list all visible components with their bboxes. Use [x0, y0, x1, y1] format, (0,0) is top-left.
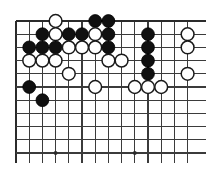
- white-stone[interactable]: [128, 81, 141, 94]
- white-stone[interactable]: [23, 54, 36, 67]
- star-point: [54, 151, 58, 155]
- black-stone[interactable]: [142, 67, 155, 80]
- star-point: [133, 151, 137, 155]
- white-stone[interactable]: [142, 81, 155, 94]
- white-stone[interactable]: [102, 54, 115, 67]
- black-stone[interactable]: [76, 28, 89, 41]
- white-stone[interactable]: [36, 54, 49, 67]
- go-board-svg[interactable]: [0, 0, 206, 177]
- black-stone[interactable]: [102, 41, 115, 54]
- black-stone[interactable]: [23, 81, 36, 94]
- black-stone[interactable]: [142, 41, 155, 54]
- black-stone[interactable]: [102, 15, 115, 28]
- white-stone[interactable]: [76, 41, 89, 54]
- white-stone[interactable]: [181, 41, 194, 54]
- black-stone[interactable]: [36, 94, 49, 107]
- black-stone[interactable]: [102, 28, 115, 41]
- black-stone[interactable]: [89, 15, 102, 28]
- white-stone[interactable]: [49, 15, 62, 28]
- black-stone[interactable]: [142, 54, 155, 67]
- black-stone[interactable]: [23, 41, 36, 54]
- white-stone[interactable]: [62, 41, 75, 54]
- white-stone[interactable]: [181, 67, 194, 80]
- black-stone[interactable]: [49, 41, 62, 54]
- white-stone[interactable]: [181, 28, 194, 41]
- white-stone[interactable]: [89, 81, 102, 94]
- black-stone[interactable]: [36, 28, 49, 41]
- white-stone[interactable]: [115, 54, 128, 67]
- white-stone[interactable]: [62, 67, 75, 80]
- white-stone[interactable]: [89, 28, 102, 41]
- go-board-diagram: [0, 0, 206, 177]
- black-stone[interactable]: [36, 41, 49, 54]
- black-stone[interactable]: [62, 28, 75, 41]
- black-stone[interactable]: [142, 28, 155, 41]
- white-stone[interactable]: [89, 41, 102, 54]
- white-stone[interactable]: [49, 28, 62, 41]
- white-stone[interactable]: [155, 81, 168, 94]
- white-stone[interactable]: [49, 54, 62, 67]
